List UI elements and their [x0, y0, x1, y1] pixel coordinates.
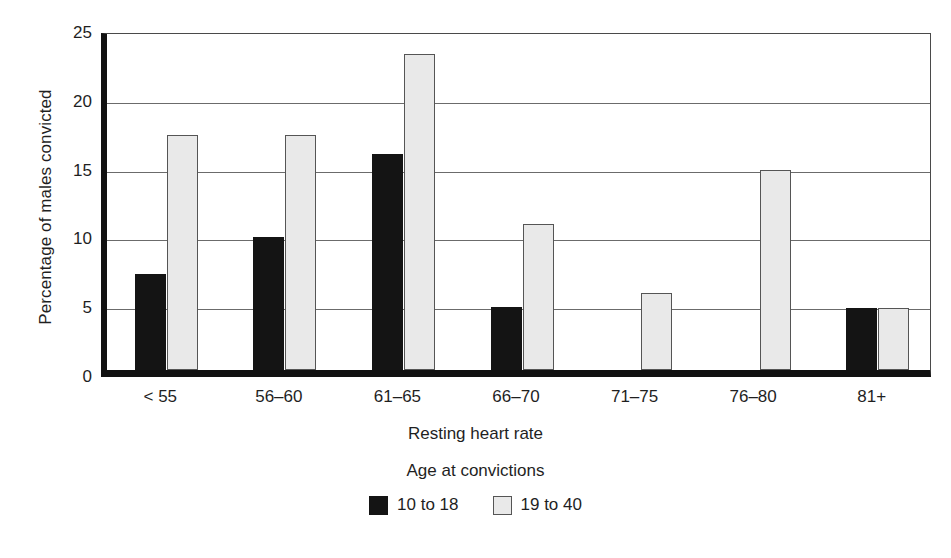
y-axis-tick-label: 15	[38, 161, 92, 181]
legend-swatch-light	[493, 496, 512, 515]
y-axis-tick-labels: 0510152025	[38, 0, 92, 400]
x-axis-tick-label: 66–70	[492, 387, 539, 407]
x-axis-title: Resting heart rate	[0, 424, 951, 444]
bar[interactable]	[135, 274, 166, 370]
legend-item-label: 10 to 18	[397, 495, 458, 515]
bar-group	[372, 34, 435, 370]
chart-legend: 10 to 1819 to 40	[0, 495, 951, 515]
bar[interactable]	[253, 237, 284, 370]
legend-item-label: 19 to 40	[521, 495, 582, 515]
bar-group	[728, 34, 791, 370]
plot-area	[101, 33, 931, 377]
legend-item[interactable]: 19 to 40	[493, 495, 582, 515]
x-axis-tick-label: 71–75	[611, 387, 658, 407]
bar[interactable]	[878, 308, 909, 370]
legend-swatch-dark	[369, 496, 388, 515]
x-axis-tick-label: 81+	[857, 387, 886, 407]
bar[interactable]	[760, 170, 791, 370]
x-axis-tick-label: < 55	[144, 387, 178, 407]
bar[interactable]	[846, 308, 877, 370]
x-axis-tick-label: 61–65	[374, 387, 421, 407]
legend-item[interactable]: 10 to 18	[369, 495, 458, 515]
bar-group	[491, 34, 554, 370]
y-axis-tick-label: 5	[38, 298, 92, 318]
bar[interactable]	[641, 293, 672, 370]
bar[interactable]	[523, 224, 554, 370]
bar[interactable]	[167, 135, 198, 370]
bar-group	[846, 34, 909, 370]
y-axis-tick-label: 25	[38, 23, 92, 43]
bar[interactable]	[491, 307, 522, 370]
x-axis-tick-label: 56–60	[255, 387, 302, 407]
x-axis-tick-labels: < 5556–6061–6566–7071–7576–8081+	[101, 387, 931, 415]
bar-group	[135, 34, 198, 370]
bar[interactable]	[372, 154, 403, 370]
y-axis-tick-label: 20	[38, 92, 92, 112]
bar[interactable]	[404, 54, 435, 370]
bar-group	[253, 34, 316, 370]
y-axis-tick-label: 10	[38, 229, 92, 249]
bar-group	[609, 34, 672, 370]
bar-chart: Percentage of males convicted 0510152025…	[0, 0, 951, 558]
bars-layer	[107, 34, 930, 370]
legend-title: Age at convictions	[0, 461, 951, 481]
y-axis-tick-label: 0	[38, 367, 92, 387]
bar[interactable]	[285, 135, 316, 370]
x-axis-tick-label: 76–80	[730, 387, 777, 407]
